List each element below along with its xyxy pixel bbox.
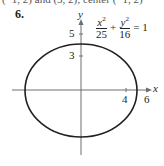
- y-axis-label: y: [78, 8, 83, 20]
- x-axis-label: x: [153, 82, 158, 94]
- fraction-x: x2 25: [96, 14, 107, 40]
- y-tick-label-3: 3: [69, 49, 75, 61]
- y-tick-label-5: 5: [69, 27, 75, 39]
- x-tick-label-6: 6: [144, 93, 150, 105]
- x-tick-label-4: 4: [122, 93, 128, 105]
- fraction-y: y2 16: [119, 14, 130, 40]
- ellipse-equation: x2 25 + y2 16 = 1: [95, 14, 150, 40]
